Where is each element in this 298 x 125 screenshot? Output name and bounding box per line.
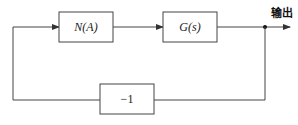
plant-block: G(s) xyxy=(163,12,217,42)
plant-block-label: G(s) xyxy=(179,20,200,34)
feedback-gain-block: −1 xyxy=(100,84,154,114)
nonlinear-block-label: N(A) xyxy=(73,20,97,34)
output-label: 输出 xyxy=(271,6,293,20)
block-diagram: N(A) G(s) 输出 −1 xyxy=(0,0,298,125)
nonlinear-block: N(A) xyxy=(59,12,113,42)
feedback-gain-label: −1 xyxy=(121,92,134,106)
